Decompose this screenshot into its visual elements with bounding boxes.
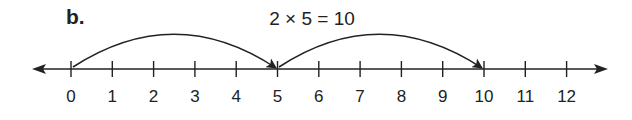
axis: [32, 64, 608, 74]
number-line-diagram: b. 2 × 5 = 10 0123456789101112: [0, 0, 632, 120]
equation-label: 2 × 5 = 10: [269, 8, 355, 29]
tick-label: 6: [314, 87, 323, 106]
tick-label: 5: [273, 87, 282, 106]
tick-label: 0: [66, 87, 75, 106]
ticks: 0123456789101112: [66, 61, 576, 106]
tick-label: 11: [516, 87, 534, 106]
tick-label: 8: [397, 87, 406, 106]
tick-label: 12: [557, 87, 576, 106]
tick-label: 9: [438, 87, 447, 106]
jump-arc-0-to-5: [73, 34, 276, 68]
part-label: b.: [66, 5, 85, 28]
tick-label: 3: [190, 87, 199, 106]
tick-label: 4: [231, 87, 240, 106]
tick-label: 2: [149, 87, 158, 106]
tick-label: 7: [355, 87, 364, 106]
tick-label: 1: [108, 87, 117, 106]
jump-arc-5-to-10: [279, 34, 482, 68]
tick-label: 10: [475, 87, 494, 106]
